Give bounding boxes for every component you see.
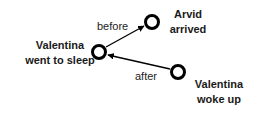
edge-label-after: after — [135, 70, 157, 82]
node-circle-icon — [146, 16, 159, 29]
edge-after: after — [108, 55, 170, 82]
edge-before: before — [97, 20, 144, 47]
node-label-line2: woke up — [196, 93, 241, 105]
temporal-graph: before after Valentina went to sleep Arv… — [0, 0, 256, 113]
node-label-line2: arrived — [170, 23, 207, 35]
node-label-line1: Valentina — [195, 78, 244, 90]
node-circle-icon — [172, 66, 185, 79]
node-label-line1: Arvid — [174, 8, 202, 20]
node-arvid-arrived: Arvid arrived — [146, 8, 207, 35]
node-label-line2: went to sleep — [24, 54, 95, 66]
node-label-line1: Valentina — [36, 39, 85, 51]
node-valentina-woke-up: Valentina woke up — [172, 66, 245, 106]
node-valentina-went-to-sleep: Valentina went to sleep — [24, 39, 105, 66]
edge-label-before: before — [97, 20, 128, 32]
